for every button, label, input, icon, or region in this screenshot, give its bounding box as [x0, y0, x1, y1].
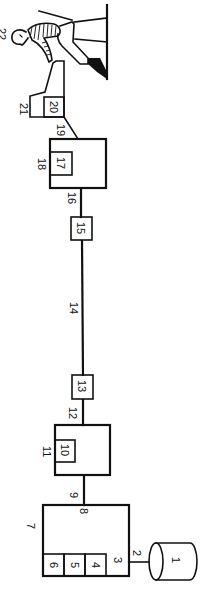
label-12: 12: [67, 407, 79, 419]
label-16: 16: [66, 192, 78, 204]
label-2: 2: [131, 550, 143, 556]
label-21: 21: [18, 103, 30, 115]
label-11: 11: [41, 446, 53, 457]
label-22: 22: [0, 28, 8, 40]
label-5: 5: [69, 562, 81, 568]
label-13: 13: [76, 380, 88, 392]
label-10: 10: [59, 444, 71, 456]
line-14: [82, 240, 83, 375]
label-20: 20: [48, 101, 60, 113]
operator-figure: [12, 5, 107, 79]
label-8: 8: [78, 508, 90, 514]
label-6: 6: [48, 562, 60, 568]
label-9: 9: [68, 492, 80, 498]
label-1: 1: [170, 557, 182, 563]
system-diagram: 1 2 6 5 4 3 7 8 9 10 11 12 13 14 15 16 1…: [0, 0, 204, 615]
label-7: 7: [25, 523, 37, 529]
label-14: 14: [68, 302, 80, 314]
label-18: 18: [36, 158, 48, 170]
label-15: 15: [75, 222, 87, 234]
label-19: 19: [55, 124, 67, 136]
label-4: 4: [90, 562, 102, 568]
label-3: 3: [112, 557, 124, 563]
label-17: 17: [55, 157, 67, 169]
